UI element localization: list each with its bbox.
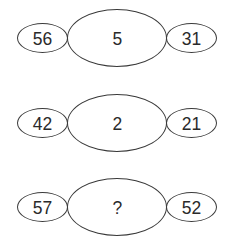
center-ellipse: 5 [67, 9, 167, 67]
right-number: 52 [182, 198, 201, 217]
left-ellipse: 42 [17, 108, 68, 138]
number-ellipse-puzzle: 56 5 31 42 2 21 57 ? 52 [0, 0, 236, 250]
puzzle-row-1: 56 5 31 [0, 8, 236, 68]
right-ellipse: 31 [166, 23, 217, 53]
left-number: 56 [33, 29, 52, 48]
puzzle-row-3: 57 ? 52 [0, 177, 236, 237]
right-number: 21 [182, 114, 201, 133]
unknown-value-question-mark: ? [112, 198, 122, 217]
center-number: 5 [112, 29, 122, 48]
left-number: 57 [33, 198, 52, 217]
center-ellipse: ? [67, 178, 167, 236]
center-number: 2 [112, 114, 122, 133]
right-ellipse: 21 [166, 108, 217, 138]
left-number: 42 [33, 114, 52, 133]
left-ellipse: 56 [17, 23, 68, 53]
puzzle-row-2: 42 2 21 [0, 93, 236, 153]
right-number: 31 [182, 29, 201, 48]
right-ellipse: 52 [166, 192, 217, 222]
left-ellipse: 57 [17, 192, 68, 222]
center-ellipse: 2 [67, 94, 167, 152]
